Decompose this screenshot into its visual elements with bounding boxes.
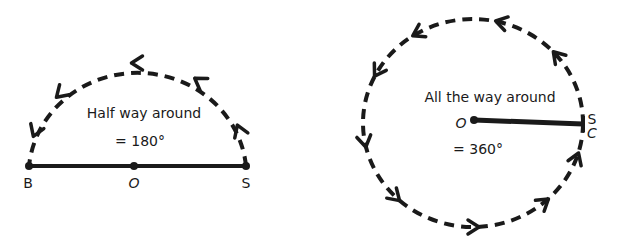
arrowhead-icon (191, 72, 208, 90)
point-b-dot (25, 162, 33, 170)
arrowhead-icon (52, 85, 70, 103)
half-turn-caption: Half way around (87, 105, 201, 121)
point-o-label: O (128, 175, 139, 191)
half-turn-diagram: Half way around = 180° B O S (23, 56, 250, 191)
point-b-label: B (23, 175, 33, 191)
point-c-label: C (587, 125, 597, 141)
direction-arrows (27, 56, 248, 139)
angle-diagrams: Half way around = 180° B O S All the way… (0, 0, 617, 247)
point-o-dot (130, 162, 138, 170)
full-turn-diagram: All the way around = 360° O S C (357, 14, 597, 234)
full-turn-caption: All the way around (424, 89, 555, 105)
half-turn-angle: = 180° (115, 133, 165, 149)
point-o-label: O (455, 115, 466, 131)
arrowhead-icon (27, 124, 44, 139)
point-o-dot (470, 116, 478, 124)
arrowhead-icon (132, 56, 143, 70)
point-s-dot (242, 162, 250, 170)
full-turn-angle: = 360° (453, 141, 503, 157)
arrowhead-icon (357, 135, 373, 148)
radius-line (474, 120, 583, 124)
point-s-label: S (242, 175, 251, 191)
